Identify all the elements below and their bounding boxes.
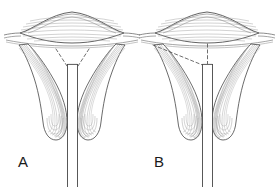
central-canal-b <box>202 64 213 187</box>
right-horn-a <box>77 44 125 140</box>
left-horn-b <box>154 44 202 140</box>
dashed-guide-left-a <box>56 49 67 66</box>
fundus-body-a <box>4 12 140 48</box>
panel-label-a: A <box>18 154 29 169</box>
anatomical-figure <box>0 0 278 193</box>
central-canal-a <box>67 64 78 187</box>
dashed-guide-right-a <box>78 49 89 66</box>
fundus-body-b <box>139 12 275 48</box>
panel-label-b: B <box>154 154 165 169</box>
left-horn-a <box>19 44 67 140</box>
right-horn-b <box>212 44 260 140</box>
